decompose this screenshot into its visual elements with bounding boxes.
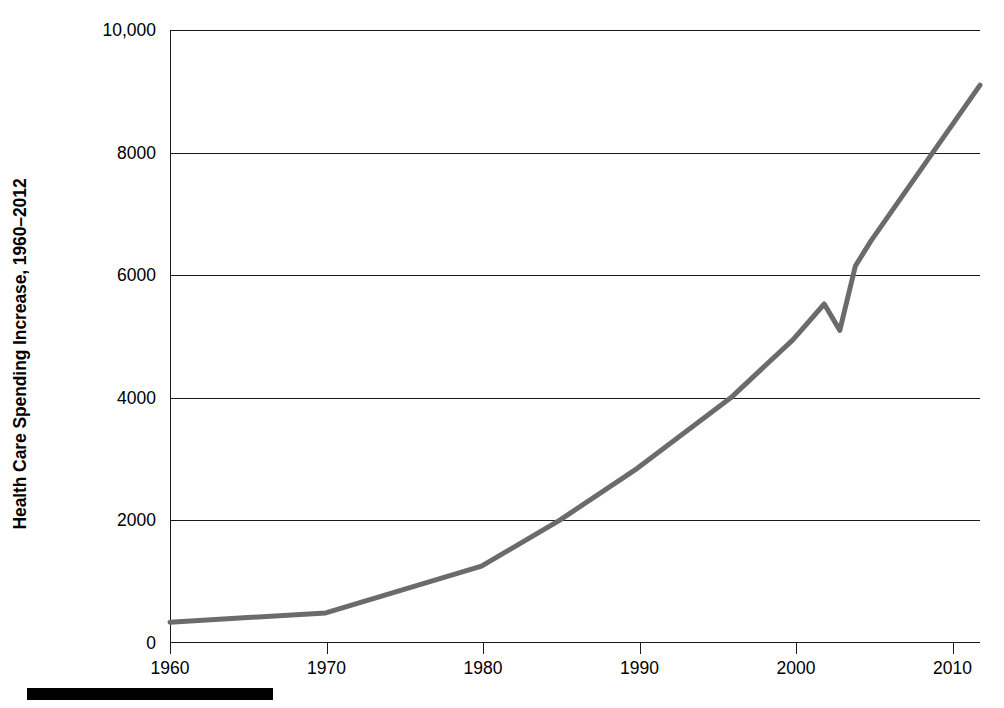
y-tick-label: 0 (146, 633, 156, 654)
footer-black-bar (27, 688, 273, 700)
chart-root: Health Care Spending Increase, 1960–2012… (0, 0, 1004, 708)
x-tick-label: 2010 (933, 658, 972, 679)
x-tick-2000 (796, 643, 797, 654)
plot-area: 1960 1970 1980 1990 2000 2010 (170, 30, 980, 643)
x-axis-tick-labels: 1960 1970 1980 1990 2000 2010 (170, 658, 980, 688)
x-tick-1980 (483, 643, 484, 654)
y-tick-label: 10,000 (102, 20, 156, 41)
x-tick-label: 2000 (777, 658, 816, 679)
x-axis-ticks (170, 643, 980, 655)
y-tick-label: 4000 (117, 387, 156, 408)
x-tick-2010 (953, 643, 954, 654)
data-series-line (170, 30, 980, 643)
x-tick-label: 1980 (464, 658, 503, 679)
x-tick-label: 1970 (307, 658, 346, 679)
x-tick-label: 1990 (620, 658, 659, 679)
y-tick-label: 8000 (117, 142, 156, 163)
x-tick-label: 1960 (151, 658, 190, 679)
x-tick-1960 (170, 643, 171, 654)
x-tick-1990 (640, 643, 641, 654)
y-tick-label: 6000 (117, 265, 156, 286)
x-tick-1970 (327, 643, 328, 654)
y-tick-label: 2000 (117, 510, 156, 531)
y-axis-tick-labels: 10,000 8000 6000 4000 2000 0 (0, 0, 170, 708)
